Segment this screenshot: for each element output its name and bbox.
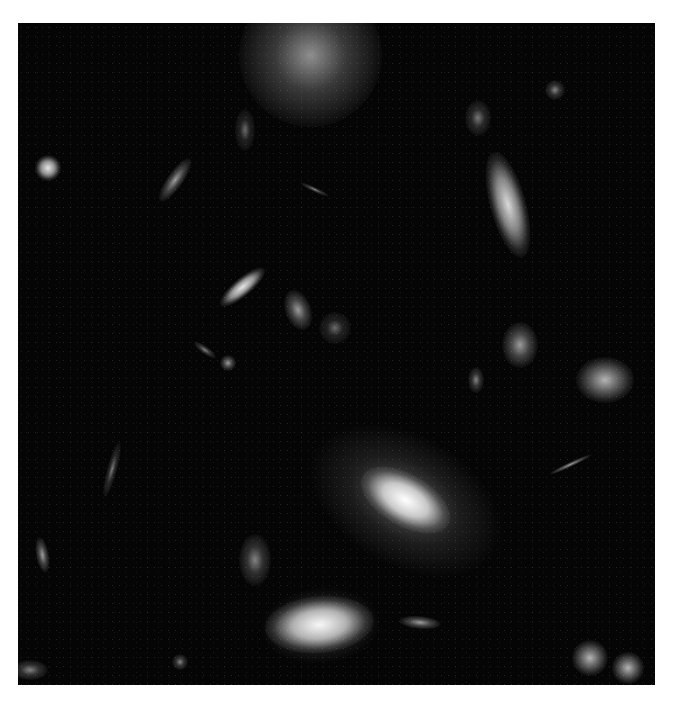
galaxy-deep-field-image xyxy=(18,23,655,685)
background-star-noise xyxy=(18,23,655,685)
